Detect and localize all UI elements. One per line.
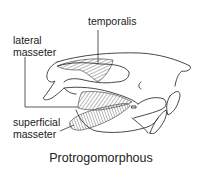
label-temporalis: temporalis	[88, 15, 136, 27]
label-superficial-masseter-2: masseter	[13, 128, 56, 140]
label-lateral-masseter-2: masseter	[13, 46, 56, 58]
label-lateral-masseter-1: lateral	[13, 34, 42, 46]
diagram-caption: Protrogomorphous	[0, 151, 202, 165]
label-superficial-masseter-1: superficial	[13, 116, 60, 128]
temporalis-muscle	[57, 59, 113, 82]
